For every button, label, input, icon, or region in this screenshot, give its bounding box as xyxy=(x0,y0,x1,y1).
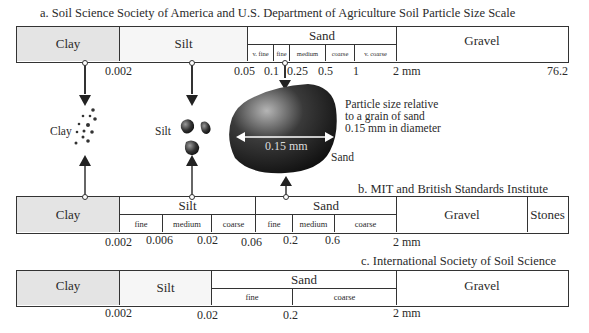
scale-b-bar: Clay Silt fine medium coarse Sand fine m… xyxy=(16,196,569,234)
grain-dimension-label: 0.15 mm xyxy=(265,139,308,154)
scale-c-sand-fine: fine xyxy=(211,288,292,305)
sand-grain-icon xyxy=(229,84,337,173)
scale-b-sand-medium: medium xyxy=(292,214,334,232)
scale-c-title: c. International Society of Soil Science xyxy=(361,254,556,269)
scale-b-clay: Clay xyxy=(17,197,119,232)
scale-c-tick: 2 mm xyxy=(393,306,421,321)
scale-c-clay: Clay xyxy=(17,271,119,305)
scale-c-bar: Clay Silt Sand fine coarse Gravel xyxy=(16,270,569,307)
scale-c-gravel: Gravel xyxy=(396,271,567,305)
scale-b-tick: 2 mm xyxy=(393,235,421,250)
marker-dot xyxy=(283,194,289,200)
scale-b-tick: 0.02 xyxy=(197,233,218,248)
sand-label: Sand xyxy=(331,151,354,163)
silt-label: Silt xyxy=(155,125,171,137)
scale-c-sand-coarse: coarse xyxy=(292,288,396,305)
silt-particles-icon xyxy=(181,119,211,155)
scale-b-title: b. MIT and British Standards Institute xyxy=(358,182,548,197)
caption-line: Particle size relative xyxy=(345,98,441,110)
scale-b-silt-medium: medium xyxy=(162,214,211,232)
scale-b-sand-coarse: coarse xyxy=(334,214,396,232)
scale-c-tick: 0.02 xyxy=(197,308,218,323)
scale-b-tick: 0.2 xyxy=(283,233,298,248)
scale-b-tick: 0.6 xyxy=(325,233,340,248)
scale-b-silt-coarse: coarse xyxy=(211,214,255,232)
scale-c-tick: 0.002 xyxy=(105,306,132,321)
scale-b-tick: 0.06 xyxy=(241,235,262,250)
scale-b-silt: Silt xyxy=(119,197,255,214)
caption: Particle size relative to a grain of san… xyxy=(345,98,441,134)
scale-c-tick: 0.2 xyxy=(283,308,298,323)
scale-b-gravel: Gravel xyxy=(396,197,527,232)
scale-c-silt: Silt xyxy=(119,271,211,305)
marker-dot xyxy=(82,194,88,200)
scale-b-sand: Sand xyxy=(255,197,396,214)
caption-line: 0.15 mm in diameter xyxy=(345,122,441,134)
scale-b-tick: 0.006 xyxy=(146,233,173,248)
marker-dot xyxy=(189,194,195,200)
scale-c-sand: Sand xyxy=(211,271,396,288)
clay-label: Clay xyxy=(50,125,72,137)
scale-b-sand-fine: fine xyxy=(255,214,292,232)
scale-b-silt-fine: fine xyxy=(119,214,162,232)
scale-b-tick: 0.002 xyxy=(105,235,132,250)
scale-b-stones: Stones xyxy=(527,197,567,232)
clay-particles-icon xyxy=(75,108,97,144)
caption-line: to a grain of sand xyxy=(345,110,441,122)
